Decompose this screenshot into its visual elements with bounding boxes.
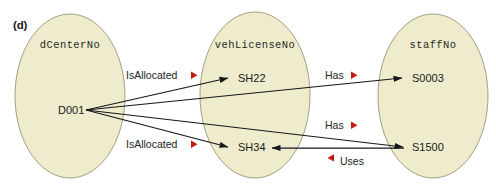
member-label-d001[interactable]: D001 xyxy=(58,104,84,116)
relationship-uses[interactable]: Uses xyxy=(328,154,364,167)
relationship-isallocated-2[interactable]: IsAllocated xyxy=(126,138,198,150)
set-group-staffno[interactable]: staffNo xyxy=(378,14,488,178)
triangle-right-icon xyxy=(191,141,198,148)
set-group-vehlicenseno[interactable]: vehLicenseNo xyxy=(200,12,310,178)
relationship-has-2[interactable]: Has xyxy=(325,119,358,131)
relationship-label-uses: Uses xyxy=(340,155,364,167)
triangle-left-icon xyxy=(328,154,335,161)
set-title-dcenterno: dCenterNo xyxy=(40,39,100,51)
ellipse-vehlicenseno[interactable] xyxy=(200,12,310,178)
relationship-isallocated-1[interactable]: IsAllocated xyxy=(126,69,198,81)
triangle-right-icon xyxy=(351,72,358,79)
set-title-vehlicenseno: vehLicenseNo xyxy=(215,39,295,51)
triangle-right-icon xyxy=(351,122,358,129)
relationship-label-isallocated-1: IsAllocated xyxy=(126,69,178,81)
relationship-label-has-1: Has xyxy=(325,69,344,81)
relationship-label-isallocated-2: IsAllocated xyxy=(126,138,178,150)
member-label-sh34[interactable]: SH34 xyxy=(238,141,266,153)
relationship-label-has-2: Has xyxy=(325,119,344,131)
set-mapping-diagram: dCenterNo vehLicenseNo staffNo D001 SH22… xyxy=(0,0,496,187)
relationship-has-1[interactable]: Has xyxy=(325,69,358,81)
triangle-right-icon xyxy=(191,72,198,79)
member-label-s0003[interactable]: S0003 xyxy=(412,72,444,84)
member-label-s1500[interactable]: S1500 xyxy=(412,141,444,153)
member-label-sh22[interactable]: SH22 xyxy=(238,72,266,84)
set-title-staffno: staffNo xyxy=(410,39,457,51)
set-group-dcenterno[interactable]: dCenterNo xyxy=(15,14,125,178)
